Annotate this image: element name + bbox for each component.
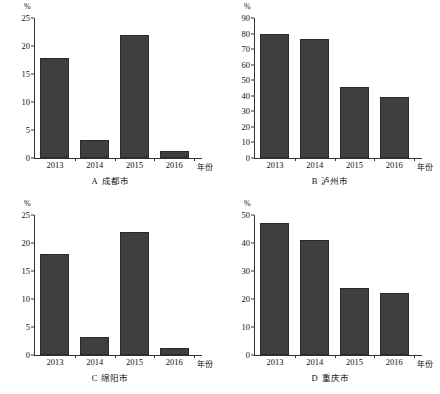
bar-slot bbox=[75, 18, 115, 158]
plot-area: 0102030405060708090 bbox=[254, 18, 414, 158]
x-tick-mark bbox=[414, 355, 415, 358]
bar-2016 bbox=[160, 151, 189, 158]
bar-slot bbox=[335, 215, 375, 355]
y-tick-label: 50 bbox=[242, 75, 251, 85]
bar-slot bbox=[374, 215, 414, 355]
y-tick-label: 20 bbox=[242, 122, 251, 132]
bar-slot bbox=[75, 215, 115, 355]
y-tick-mark bbox=[31, 243, 34, 244]
bar-2016 bbox=[380, 97, 409, 158]
y-tick-mark bbox=[251, 299, 254, 300]
y-tick-label: 70 bbox=[242, 44, 251, 54]
y-tick-label: 30 bbox=[242, 266, 251, 276]
x-tick-label-2016: 2016 bbox=[374, 357, 414, 367]
y-tick-mark bbox=[251, 80, 254, 81]
plot-area: 01020304050 bbox=[254, 215, 414, 355]
chart-panel-a: %05101520252013201420152016年份A成都市 bbox=[0, 0, 220, 197]
y-tick-label: 25 bbox=[22, 13, 31, 23]
x-tick-label-2014: 2014 bbox=[295, 357, 335, 367]
panel-city-name: 泸州市 bbox=[321, 176, 348, 186]
y-tick-mark bbox=[251, 95, 254, 96]
x-axis-name-label: 年份 bbox=[417, 358, 433, 369]
y-tick-label: 20 bbox=[22, 238, 31, 248]
y-tick-mark bbox=[31, 74, 34, 75]
y-tick-mark bbox=[31, 327, 34, 328]
y-tick-label: 25 bbox=[22, 210, 31, 220]
y-tick-label: 90 bbox=[242, 13, 251, 23]
y-tick-label: 15 bbox=[22, 69, 31, 79]
x-tick-label-2015: 2015 bbox=[335, 160, 375, 170]
bar-slot bbox=[154, 215, 194, 355]
y-tick-label: 10 bbox=[242, 322, 251, 332]
x-tick-label-2016: 2016 bbox=[154, 357, 194, 367]
y-tick-mark bbox=[251, 64, 254, 65]
bar-slot bbox=[35, 215, 75, 355]
bar-slot bbox=[35, 18, 75, 158]
panel-letter: B bbox=[312, 176, 318, 186]
panel-caption: D重庆市 bbox=[220, 371, 440, 383]
bar-2014 bbox=[80, 337, 109, 355]
y-tick-mark bbox=[251, 49, 254, 50]
x-axis-line bbox=[254, 158, 422, 159]
chart-panel-c: %05101520252013201420152016年份C绵阳市 bbox=[0, 197, 220, 394]
y-tick-label: 5 bbox=[26, 125, 30, 135]
panel-letter: D bbox=[311, 373, 317, 383]
x-axis-tick-labels: 2013201420152016 bbox=[35, 357, 194, 367]
y-tick-label: 10 bbox=[22, 97, 31, 107]
plot-area: 0510152025 bbox=[34, 18, 194, 158]
bar-series bbox=[255, 18, 414, 158]
y-tick-mark bbox=[31, 355, 34, 356]
x-tick-label-2014: 2014 bbox=[295, 160, 335, 170]
y-tick-label: 0 bbox=[246, 350, 250, 360]
x-axis-name-label: 年份 bbox=[197, 161, 213, 172]
panel-caption: C绵阳市 bbox=[0, 371, 220, 383]
y-tick-label: 30 bbox=[242, 106, 251, 116]
y-tick-mark bbox=[31, 158, 34, 159]
chart-panel-b: %01020304050607080902013201420152016年份B泸… bbox=[220, 0, 440, 197]
x-tick-label-2015: 2015 bbox=[115, 160, 155, 170]
x-axis-tick-labels: 2013201420152016 bbox=[255, 160, 414, 170]
y-tick-mark bbox=[31, 271, 34, 272]
x-tick-label-2013: 2013 bbox=[255, 357, 295, 367]
x-tick-label-2016: 2016 bbox=[154, 160, 194, 170]
x-tick-label-2013: 2013 bbox=[255, 160, 295, 170]
x-tick-label-2014: 2014 bbox=[75, 357, 115, 367]
y-tick-label: 40 bbox=[242, 91, 251, 101]
panel-city-name: 成都市 bbox=[102, 176, 129, 186]
plot-area: 0510152025 bbox=[34, 215, 194, 355]
bar-2015 bbox=[340, 87, 369, 158]
panel-caption: B泸州市 bbox=[220, 174, 440, 186]
y-tick-label: 15 bbox=[22, 266, 31, 276]
y-tick-label: 10 bbox=[242, 137, 251, 147]
bar-2013 bbox=[260, 34, 289, 158]
bar-2015 bbox=[120, 232, 149, 355]
y-tick-label: 0 bbox=[26, 350, 30, 360]
bar-slot bbox=[335, 18, 375, 158]
y-tick-mark bbox=[251, 327, 254, 328]
y-tick-mark bbox=[251, 271, 254, 272]
x-axis-line bbox=[254, 355, 422, 356]
bar-slot bbox=[154, 18, 194, 158]
bar-2016 bbox=[380, 293, 409, 355]
y-tick-label: 0 bbox=[26, 153, 30, 163]
x-axis-name-label: 年份 bbox=[197, 358, 213, 369]
y-tick-mark bbox=[251, 126, 254, 127]
y-tick-mark bbox=[251, 215, 254, 216]
panel-letter: C bbox=[92, 373, 98, 383]
bar-slot bbox=[115, 215, 155, 355]
panel-city-name: 绵阳市 bbox=[101, 373, 128, 383]
y-tick-label: 10 bbox=[22, 294, 31, 304]
y-tick-mark bbox=[251, 33, 254, 34]
bar-slot bbox=[255, 18, 295, 158]
bar-series bbox=[35, 215, 194, 355]
y-tick-label: 50 bbox=[242, 210, 251, 220]
y-tick-mark bbox=[251, 18, 254, 19]
y-tick-mark bbox=[251, 243, 254, 244]
y-axis-unit-label: % bbox=[24, 2, 31, 11]
y-tick-label: 40 bbox=[242, 238, 251, 248]
x-axis-line bbox=[34, 158, 202, 159]
figure-panel-grid: %05101520252013201420152016年份A成都市%010203… bbox=[0, 0, 440, 394]
y-axis-unit-label: % bbox=[244, 199, 251, 208]
x-tick-mark bbox=[414, 158, 415, 161]
y-tick-label: 20 bbox=[242, 294, 251, 304]
